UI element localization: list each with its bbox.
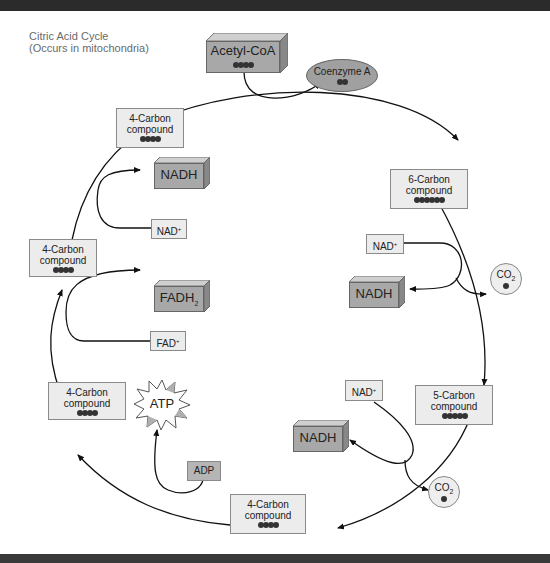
coenzyme-a-label: Coenzyme A [307, 60, 377, 77]
nadh-block-bottom: NADH [293, 420, 349, 452]
atp-starburst: ATP [133, 378, 191, 430]
nad-plus-right-top: NAD+ [366, 234, 404, 254]
fadh-subscript: 2 [194, 300, 198, 307]
nad-superscript: + [394, 241, 398, 247]
nad-plus-right-bottom: NAD+ [345, 380, 383, 401]
nad-plus-left: NAD+ [151, 219, 187, 239]
nad-text: NAD [352, 387, 373, 398]
co2-text: CO [497, 269, 512, 280]
co2-subscript: 2 [450, 488, 454, 495]
carbon-dot [441, 496, 447, 502]
compound-label: 4-Carbon [49, 383, 125, 398]
cycle-arrows [0, 0, 550, 563]
compound-6-carbon: 6-Carbon compound [390, 169, 468, 209]
co2-circle-bottom: CO2 [428, 476, 460, 508]
atp-label: ATP [133, 396, 191, 411]
acetyl-coa-block: Acetyl-CoA [206, 33, 288, 73]
compound-label: compound [431, 401, 478, 412]
acetyl-coa-label: Acetyl-CoA [206, 43, 280, 58]
compound-label: compound [64, 398, 111, 409]
compound-label: compound [40, 255, 87, 266]
co2-circle-top: CO2 [490, 263, 522, 295]
carbon-dot [503, 283, 509, 289]
compound-label: 4-Carbon [30, 240, 96, 255]
carbon-dots [117, 136, 183, 142]
nadh-label: NADH [293, 430, 343, 445]
compound-4-carbon-left: 4-Carbon compound [29, 239, 97, 277]
carbon-dots [49, 410, 125, 416]
compound-label: 4-Carbon [117, 109, 183, 124]
compound-4-carbon-lower-left: 4-Carbon compound [48, 382, 126, 420]
nad-text: NAD [373, 241, 394, 252]
carbon-dots [391, 197, 467, 203]
fadh2-label: FADH2 [154, 290, 204, 307]
compound-label: compound [245, 510, 292, 521]
coenzyme-a-dots [307, 79, 377, 85]
compound-4-carbon-top: 4-Carbon compound [116, 108, 184, 148]
coenzyme-a: Coenzyme A [306, 59, 378, 92]
compound-label: 5-Carbon [416, 386, 492, 401]
compound-label: compound [406, 185, 453, 196]
compound-label: 4-Carbon [231, 495, 305, 510]
co2-subscript: 2 [512, 275, 516, 282]
fadh-text: FADH [160, 290, 195, 305]
acetyl-coa-carbons [206, 60, 280, 68]
carbon-dots [30, 267, 96, 273]
fad-superscript: + [176, 338, 180, 344]
nad-superscript: + [373, 387, 377, 393]
compound-label: 6-Carbon [391, 170, 467, 185]
nadh-block-top: NADH [154, 157, 210, 189]
bottom-band [0, 554, 550, 563]
nad-superscript: + [178, 226, 182, 232]
co2-text: CO [435, 482, 450, 493]
adp-box: ADP [187, 461, 221, 481]
fadh2-block: FADH2 [154, 280, 210, 312]
nadh-block-right: NADH [349, 276, 405, 308]
nad-text: NAD [157, 226, 178, 237]
fad-plus: FAD+ [150, 331, 186, 351]
compound-label: compound [127, 124, 174, 135]
nadh-label: NADH [349, 286, 399, 301]
compound-4-carbon-bottom: 4-Carbon compound [230, 494, 306, 534]
carbon-dots [231, 522, 305, 528]
nadh-label: NADH [154, 167, 204, 182]
fad-text: FAD [157, 338, 176, 349]
compound-5-carbon: 5-Carbon compound [415, 385, 493, 425]
carbon-dots [416, 413, 492, 419]
